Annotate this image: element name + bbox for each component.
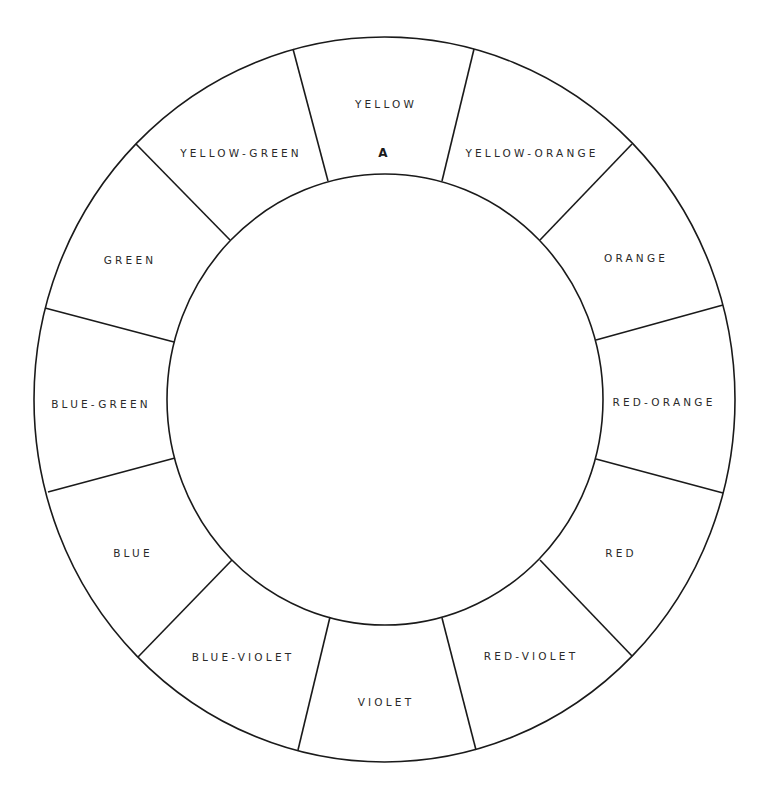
segment-label-violet: VIOLET — [358, 696, 415, 708]
segment-divider — [596, 305, 723, 340]
segment-divider — [293, 49, 328, 181]
segment-label-red: RED — [605, 547, 637, 559]
segment-divider — [48, 458, 175, 492]
segment-label-yellow: YELLOW — [355, 98, 417, 110]
segment-label-blue: BLUE — [113, 547, 153, 559]
segment-label-yellow-green: YELLOW-GREEN — [180, 147, 302, 159]
segment-divider — [45, 308, 174, 342]
segment-divider — [298, 617, 330, 750]
segment-label-red-violet: RED-VIOLET — [484, 650, 579, 662]
segment-label-yellow-orange: YELLOW-ORANGE — [465, 147, 598, 159]
segment-divider — [596, 459, 723, 493]
segment-divider — [442, 49, 474, 181]
segment-divider — [138, 560, 232, 657]
segment-label-orange: ORANGE — [604, 252, 668, 264]
segment-divider — [442, 618, 476, 750]
segment-label-blue-violet: BLUE-VIOLET — [192, 651, 295, 663]
inner-circle — [167, 174, 603, 625]
segment-label-green: GREEN — [104, 254, 157, 266]
segment-divider — [540, 560, 632, 656]
segment-label-red-orange: RED-ORANGE — [612, 396, 715, 408]
position-marker-a: A — [378, 146, 387, 160]
segment-label-blue-green: BLUE-GREEN — [51, 398, 151, 410]
